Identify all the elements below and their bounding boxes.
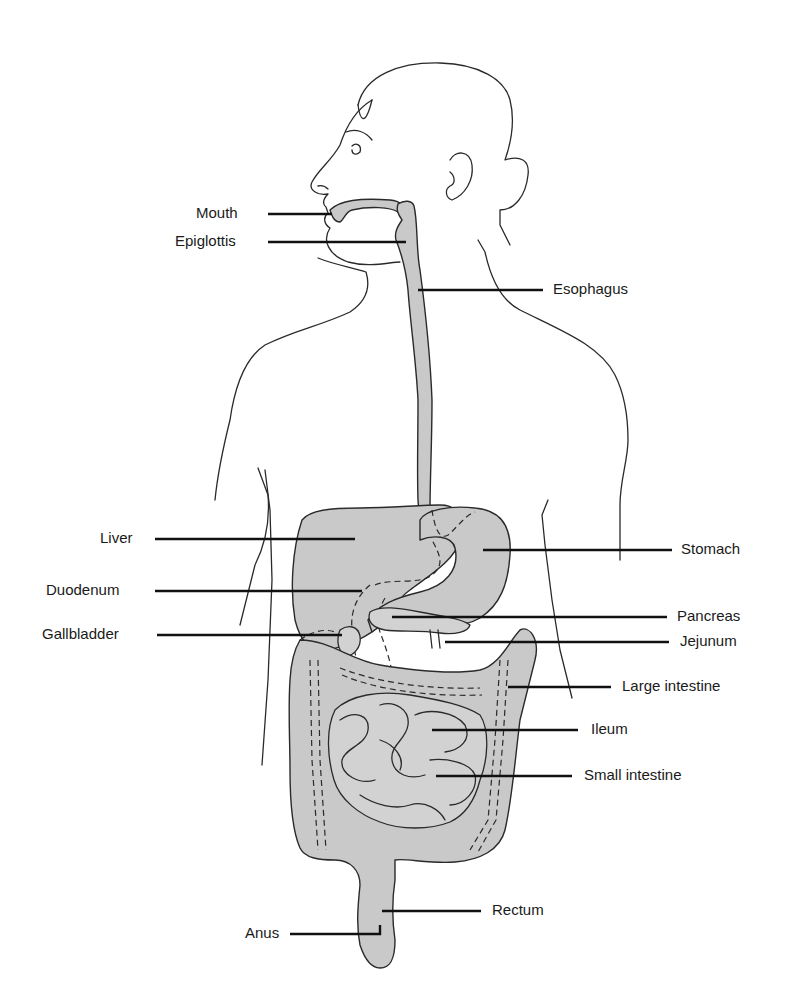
label-esophagus: Esophagus xyxy=(553,280,628,298)
label-anus: Anus xyxy=(245,924,279,942)
label-pancreas: Pancreas xyxy=(677,607,740,625)
label-stomach: Stomach xyxy=(681,540,740,558)
label-jejunum: Jejunum xyxy=(680,632,737,650)
label-small-intestine: Small intestine xyxy=(584,766,682,784)
label-large-intestine: Large intestine xyxy=(622,677,720,695)
label-gallbladder: Gallbladder xyxy=(42,625,119,643)
label-liver: Liver xyxy=(100,529,133,547)
label-rectum: Rectum xyxy=(492,901,544,919)
label-mouth: Mouth xyxy=(196,204,238,222)
label-duodenum: Duodenum xyxy=(46,581,119,599)
digestive-system-diagram xyxy=(0,0,797,985)
label-ileum: Ileum xyxy=(591,720,628,738)
mouth-cavity xyxy=(330,199,404,222)
label-epiglottis: Epiglottis xyxy=(175,232,236,250)
esophagus xyxy=(395,201,432,530)
